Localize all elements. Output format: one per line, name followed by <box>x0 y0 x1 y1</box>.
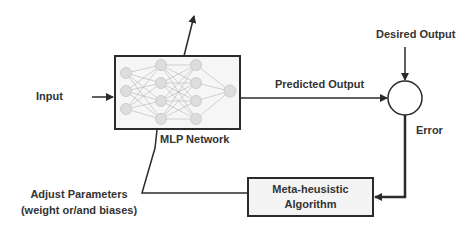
desired-output-label: Desired Output <box>376 28 455 40</box>
input-label: Input <box>36 90 63 102</box>
meta-heuristic-line1: Meta-heusistic <box>248 182 373 197</box>
error-label: Error <box>416 124 443 136</box>
meta-heuristic-text: Meta-heusistic Algorithm <box>248 182 373 212</box>
adjust-parameters-line1: Adjust Parameters <box>14 186 144 202</box>
error-comparator-circle <box>388 81 422 115</box>
error-arrow <box>375 115 405 197</box>
meta-heuristic-line2: Algorithm <box>248 197 373 212</box>
adjust-parameters-line2: (weight or/and biases) <box>14 202 144 218</box>
mlp-network-label: MLP Network <box>160 133 229 145</box>
adjust-through-line <box>184 16 194 56</box>
adjust-parameters-text: Adjust Parameters (weight or/and biases) <box>14 186 144 218</box>
predicted-output-label: Predicted Output <box>275 78 364 90</box>
